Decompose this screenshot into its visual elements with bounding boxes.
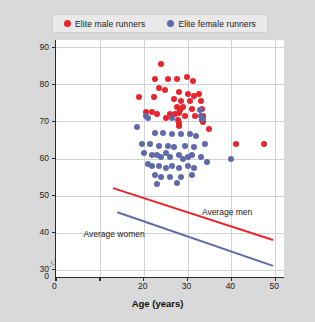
data-point-female <box>165 143 171 149</box>
data-point-female <box>156 143 162 149</box>
y-tick-label: 40 <box>31 227 49 237</box>
data-point-male <box>174 76 180 82</box>
data-point-male <box>206 126 212 132</box>
data-point-male <box>177 107 183 113</box>
data-point-male <box>154 111 160 117</box>
legend-entry-male: Elite male runners <box>64 19 145 29</box>
legend-swatch-female-icon <box>167 20 174 27</box>
data-point-female <box>169 115 175 121</box>
y-tick-label: 60 <box>31 153 49 163</box>
data-point-male <box>187 98 193 104</box>
data-point-female <box>147 141 153 147</box>
data-point-male <box>163 115 169 121</box>
data-point-male <box>176 89 182 95</box>
data-point-male <box>171 96 177 102</box>
data-point-male <box>152 76 158 82</box>
data-point-female <box>228 156 234 162</box>
data-point-female <box>174 180 180 186</box>
data-point-female <box>141 150 147 156</box>
x-tick-label: 30 <box>175 281 199 291</box>
x-tick-label: 40 <box>218 281 242 291</box>
x-tick-label: 20 <box>131 281 155 291</box>
x-tick-mark <box>99 277 100 281</box>
y-tick-label: 50 <box>31 190 49 200</box>
y-tick-label: 80 <box>31 79 49 89</box>
data-point-female <box>182 143 188 149</box>
data-point-male <box>165 76 171 82</box>
data-point-female <box>198 154 204 160</box>
data-point-female <box>152 172 158 178</box>
y-tick-label-zero: 0 <box>31 271 49 281</box>
data-point-female <box>139 141 145 147</box>
data-point-female <box>152 130 158 136</box>
data-point-male <box>176 123 182 129</box>
data-point-male <box>185 91 191 97</box>
x-origin-label: 0 <box>52 281 57 291</box>
data-point-female <box>167 154 173 160</box>
data-point-female <box>202 141 208 147</box>
y-tick-label: 90 <box>31 42 49 52</box>
data-point-female <box>156 163 162 169</box>
data-point-female <box>189 152 195 158</box>
x-tick-label: 50 <box>262 281 286 291</box>
legend-label-female: Elite female runners <box>178 19 256 29</box>
data-point-male <box>198 98 204 104</box>
data-point-female <box>191 165 197 171</box>
figure-container: Elite male runners Elite female runners … <box>0 0 315 322</box>
legend-entry-female: Elite female runners <box>167 19 256 29</box>
data-point-female <box>163 165 169 171</box>
annotation-average-women: Average women <box>84 229 145 239</box>
legend-label-male: Elite male runners <box>75 19 145 29</box>
legend-swatch-male-icon <box>64 20 71 27</box>
annotation-average-men: Average men <box>202 207 252 217</box>
plot-area <box>55 40 284 278</box>
y-tick-label: 70 <box>31 116 49 126</box>
data-point-female <box>185 163 191 169</box>
chart-legend: Elite male runners Elite female runners <box>52 14 268 33</box>
data-point-female <box>178 174 184 180</box>
data-point-male <box>189 106 195 112</box>
data-point-female <box>167 174 173 180</box>
data-point-female <box>176 165 182 171</box>
data-point-male <box>190 78 196 84</box>
data-point-male <box>196 91 202 97</box>
data-point-male <box>261 141 267 147</box>
data-point-male <box>184 74 190 80</box>
trend-line-women <box>117 212 273 266</box>
data-point-female <box>200 116 206 122</box>
data-point-male <box>233 141 239 147</box>
data-point-male <box>162 87 168 93</box>
data-point-female <box>145 115 151 121</box>
x-axis-title: Age (years) <box>0 298 315 309</box>
